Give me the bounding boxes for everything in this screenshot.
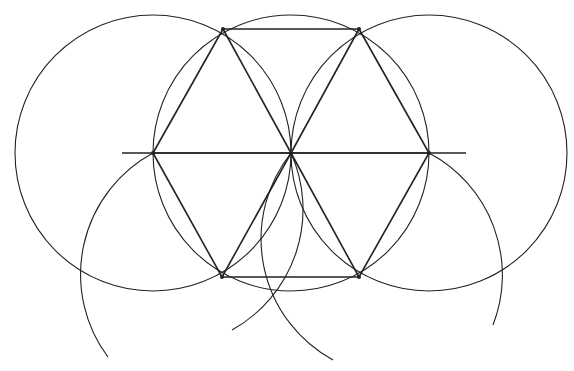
hexagon-spoke xyxy=(291,29,359,153)
hexagon-edge xyxy=(359,29,429,153)
vertex-point xyxy=(221,27,225,31)
vertex-point xyxy=(220,275,224,279)
hexagon-spoke xyxy=(291,153,359,277)
hexagon-edge xyxy=(153,153,222,277)
hexagon-edge xyxy=(359,153,429,277)
vertex-point xyxy=(151,151,155,155)
vertex-point xyxy=(289,151,293,155)
compass-arc xyxy=(261,153,333,360)
hexagon-spoke xyxy=(223,29,291,153)
compass-arc xyxy=(81,153,153,357)
vertex-point xyxy=(357,275,361,279)
hexagon-edge xyxy=(153,29,223,153)
hexagon-construction-diagram xyxy=(0,0,574,371)
vertex-point xyxy=(427,151,431,155)
hexagon-spoke xyxy=(222,153,291,277)
vertex-point xyxy=(357,27,361,31)
compass-arc xyxy=(429,153,502,325)
